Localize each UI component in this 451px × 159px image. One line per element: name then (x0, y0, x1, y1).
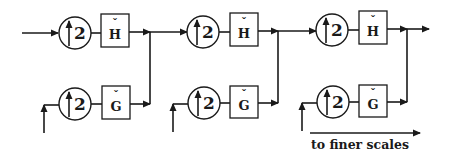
filter-label: G (238, 98, 249, 113)
stage-2-lower-upsampler: 2 (188, 87, 220, 119)
stage-2-lower-filter-g: ˇ G (230, 86, 258, 118)
filter-label: G (367, 97, 378, 112)
stage-3-lower-upsampler: 2 (317, 86, 349, 118)
filter-label: H (109, 27, 121, 42)
filter-label: H (238, 26, 250, 41)
caption-to-finer-scales: to finer scales (311, 137, 409, 152)
stage-2-upper-filter-h: ˇ H (230, 13, 258, 46)
stage-1: 2 ˇ H 2 ˇ G (22, 14, 187, 133)
filter-label: G (110, 99, 121, 114)
stage-2-upper-upsampler: 2 (187, 16, 219, 48)
stage-3-upper-upsampler: 2 (316, 14, 348, 46)
stage-1-upper-upsampler: 2 (59, 17, 91, 49)
stage-3-upper-filter-h: ˇ H (359, 11, 387, 44)
stage-3-lower-filter-g: ˇ G (359, 85, 387, 117)
upsample-factor: 2 (74, 23, 86, 43)
stage-3: 2 ˇ H 2 ˇ G (302, 11, 429, 131)
stage-1-lower-upsampler: 2 (59, 88, 91, 120)
upsample-factor: 2 (202, 22, 214, 42)
filter-label: H (367, 24, 379, 39)
upsample-factor: 2 (331, 20, 343, 40)
filter-bank-diagram: 2 ˇ H 2 ˇ G 2 (0, 0, 451, 159)
upsample-factor: 2 (74, 94, 86, 114)
upsample-factor: 2 (332, 92, 344, 112)
stage-1-lower-filter-g: ˇ G (102, 86, 130, 119)
stage-1-upper-filter-h: ˇ H (101, 14, 129, 47)
stage-2: 2 ˇ H 2 ˇ G (173, 13, 316, 132)
upsample-factor: 2 (203, 93, 215, 113)
